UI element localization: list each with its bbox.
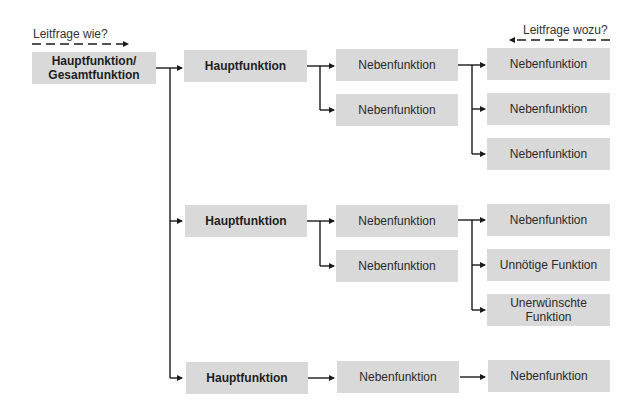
hauptfunktion-node-2: Hauptfunktion — [185, 205, 307, 237]
level3-node-1-3: Nebenfunktion — [487, 138, 610, 170]
level3-node-unnoetige-funktion: Unnötige Funktion — [487, 249, 610, 281]
unerwuenschte-line-2: Funktion — [525, 310, 571, 324]
root-line-2: Gesamtfunktion — [48, 68, 139, 82]
level3-node-unerwuenschte-funktion: Unerwünschte Funktion — [487, 294, 610, 326]
hauptfunktion-node-1: Hauptfunktion — [184, 50, 307, 82]
nebenfunktion-node-1-2: Nebenfunktion — [336, 94, 458, 126]
level3-node-3-1: Nebenfunktion — [488, 360, 610, 392]
level3-node-1-2: Nebenfunktion — [487, 93, 610, 125]
nebenfunktion-node-2-2: Nebenfunktion — [336, 250, 458, 282]
guide-label-wie: Leitfrage wie? — [33, 27, 108, 41]
unerwuenschte-line-1: Unerwünschte — [510, 296, 587, 310]
level3-node-1-1: Nebenfunktion — [487, 48, 610, 80]
nebenfunktion-node-3-1: Nebenfunktion — [337, 361, 459, 393]
root-line-1: Hauptfunktion/ — [52, 54, 137, 68]
root-node-gesamtfunktion: Hauptfunktion/ Gesamtfunktion — [32, 52, 156, 84]
nebenfunktion-node-1-1: Nebenfunktion — [336, 49, 458, 81]
level3-node-2-1: Nebenfunktion — [487, 204, 610, 236]
nebenfunktion-node-2-1: Nebenfunktion — [336, 205, 458, 237]
guide-label-wozu: Leitfrage wozu? — [523, 23, 608, 37]
hauptfunktion-node-3: Hauptfunktion — [186, 362, 308, 394]
